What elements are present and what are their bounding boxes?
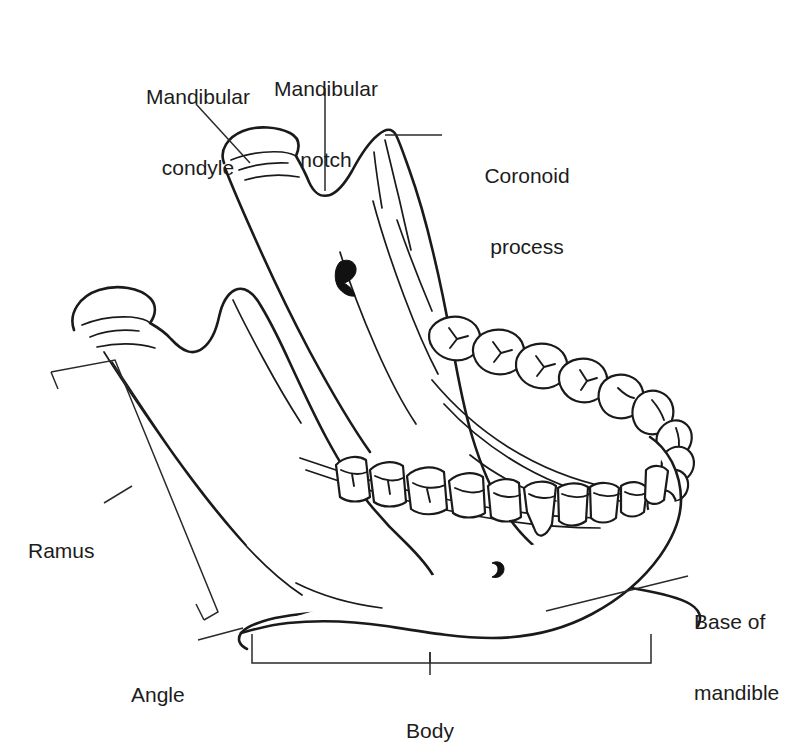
label-coronoid-process-line2: process — [447, 235, 607, 259]
label-mandibular-notch-line1: Mandibular — [236, 77, 416, 101]
near-tooth-incisor-3 — [621, 482, 647, 516]
label-mandibular-notch: Mandibular notch — [236, 30, 416, 218]
bracket-ramus-tick-top — [51, 372, 58, 389]
near-tooth-5 — [488, 479, 521, 521]
label-ramus: Ramus — [28, 492, 148, 610]
label-mandibular-notch-line2: notch — [236, 148, 416, 172]
near-tooth-incisor-4 — [645, 466, 668, 504]
bracket-ramus-tick-bottom — [196, 604, 204, 620]
label-base-of-mandible-line1: Base of — [694, 610, 797, 634]
label-base-of-mandible-line2: mandible — [694, 681, 797, 705]
label-coronoid-process-line1: Coronoid — [447, 164, 607, 188]
near-tooth-4 — [449, 473, 485, 517]
label-coronoid-process: Coronoid process — [447, 117, 607, 305]
label-body-line1: Body — [380, 719, 480, 743]
bracket-body — [252, 634, 651, 663]
near-tooth-incisor-1 — [558, 483, 588, 525]
near-tooth-incisor-2 — [590, 483, 619, 523]
label-body: Body — [380, 672, 480, 746]
label-base-of-mandible: Base of mandible — [694, 563, 797, 746]
label-angle-line1: Angle — [131, 683, 241, 707]
label-ramus-line1: Ramus — [28, 539, 148, 563]
label-angle: Angle — [131, 636, 241, 746]
